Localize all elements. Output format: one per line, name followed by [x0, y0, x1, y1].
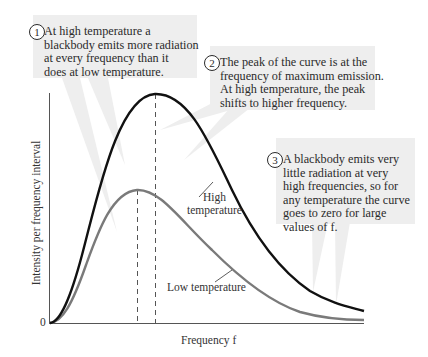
low-temperature-label: Low temperature — [167, 281, 246, 294]
high-temperature-label: High temperature — [187, 191, 242, 217]
callout-number-2: 2 — [204, 55, 220, 71]
callout-number-1: 1 — [29, 24, 45, 40]
callout-text-1: At high temperature a blackbody emits mo… — [44, 25, 191, 79]
callout-number-3: 3 — [267, 152, 283, 168]
x-axis-label: Frequency f — [181, 334, 236, 346]
callout-3: 3 A blackbody emits very little radiatio… — [276, 138, 415, 224]
y-axis-label: Intensity per frequency interval — [30, 123, 42, 303]
callout-2: 2 The peak of the curve is at the freque… — [210, 46, 375, 110]
origin-label: 0 — [40, 316, 46, 328]
callout-text-2: The peak of the curve is at the frequenc… — [220, 56, 369, 110]
callout-text-3: A blackbody emits very little radiation … — [283, 153, 411, 235]
callout-1: 1 At high temperature a blackbody emits … — [33, 15, 197, 78]
